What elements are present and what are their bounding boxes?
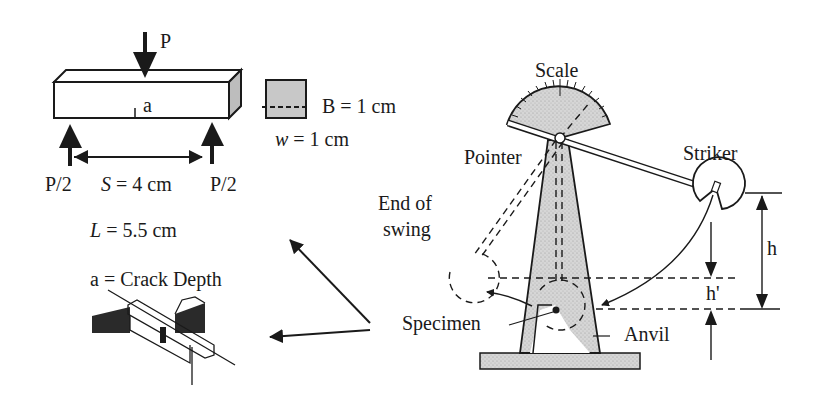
end-of-swing-label-line2: swing (383, 218, 431, 241)
right-anvil-block (175, 303, 205, 333)
support-left-label: P/2 (45, 173, 72, 195)
arrow-to-crack-icon (270, 330, 370, 337)
end-of-swing-label-line1: End of (378, 192, 432, 214)
load-arrow-icon (133, 32, 157, 78)
notch-mark (160, 327, 166, 343)
rebound-height-label: h' (706, 282, 720, 304)
impact-test-diagram: P a P/2 P/2 S = 4 cm L = 5.5 cm B = 1 cm… (0, 0, 816, 400)
pivot (555, 133, 565, 143)
striker-label: Striker (683, 142, 738, 164)
arrow-to-beam-icon (290, 240, 370, 323)
load-label: P (160, 30, 171, 52)
width-label: w = 1 cm (275, 128, 350, 150)
h-prime-arrow-down-icon (705, 262, 717, 277)
pendulum-machine (449, 79, 782, 369)
support-left-arrow-icon (59, 124, 82, 166)
pendulum-arm (508, 123, 700, 186)
left-anvil-block (92, 307, 130, 333)
pointer-label: Pointer (464, 146, 522, 168)
cross-section-figure (262, 80, 306, 118)
machine-base (480, 353, 640, 369)
span-arrowhead-left-icon (74, 150, 88, 164)
swing-path-arrow (602, 195, 713, 305)
specimen-label: Specimen (402, 312, 481, 335)
h-prime-arrow-up-icon (705, 310, 717, 325)
support-right-label: P/2 (210, 173, 237, 195)
cross-section-square (266, 80, 306, 118)
beam-front-face (54, 82, 229, 118)
breadth-label: B = 1 cm (322, 95, 396, 117)
specimen-dot (553, 307, 560, 314)
length-label: L = 5.5 cm (89, 219, 177, 241)
crack-detail-figure (92, 290, 235, 385)
anvil-label: Anvil (624, 323, 670, 345)
h-arrow-down-icon (756, 294, 768, 309)
scale-label: Scale (535, 59, 578, 81)
crack-depth-label: a = Crack Depth (90, 268, 222, 291)
crack-label: a (143, 94, 152, 116)
support-right-arrow-icon (201, 122, 224, 164)
height-label: h (767, 237, 777, 259)
h-arrow-up-icon (756, 195, 768, 210)
beam-end-face (229, 70, 241, 118)
diagram-canvas: P a P/2 P/2 S = 4 cm L = 5.5 cm B = 1 cm… (0, 0, 816, 400)
span-label: S = 4 cm (101, 173, 172, 195)
